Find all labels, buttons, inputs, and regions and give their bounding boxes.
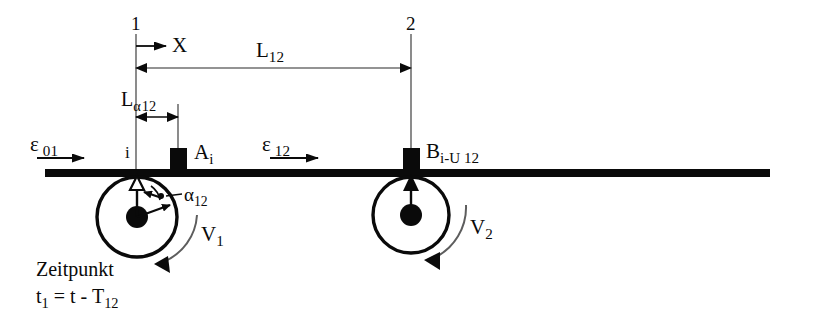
block-a-symbol: A — [194, 140, 209, 164]
epsilon-12-symbol: ε — [262, 132, 271, 156]
block-a-subscript: i — [209, 151, 213, 167]
dimension-label-l12: L12 — [256, 40, 284, 65]
block-label-b: Bi-U 12 — [426, 141, 479, 166]
epsilon-01-subscript: 01 — [39, 143, 58, 159]
diagram-vector-layer — [0, 0, 816, 318]
wheel-2 — [373, 174, 466, 270]
time-note: Zeitpunkt t1 = t - T12 — [36, 256, 119, 310]
block-b-subscript: i-U 12 — [440, 150, 479, 166]
diagram-canvas: 1 2 X L12 Lα12 ε01 ε12 i Ai Bi-U 12 α12 … — [0, 0, 816, 318]
dimension-l12-symbol: L — [256, 38, 269, 62]
dimension-lalpha-alpha: α — [133, 98, 141, 114]
time-note-line2: t1 = t - T12 — [36, 283, 119, 310]
velocity-v1-subscript: 1 — [216, 233, 224, 249]
epsilon-12-subscript: 12 — [271, 143, 290, 159]
sensor-block-b — [403, 148, 420, 171]
angle-alpha-symbol: α — [184, 184, 194, 205]
point-label-i: i — [125, 144, 130, 161]
node-label-1: 1 — [131, 14, 141, 33]
x-axis-label: X — [172, 35, 187, 56]
epsilon-12-label: ε12 — [262, 134, 290, 159]
velocity-label-v1: V1 — [201, 224, 224, 249]
angle-alpha-subscript: 12 — [194, 194, 208, 209]
time-note-T-subscript: 12 — [104, 295, 118, 311]
block-label-a: Ai — [194, 142, 213, 167]
dimension-label-l-alpha-12: Lα12 — [121, 89, 156, 113]
time-note-line1: Zeitpunkt — [36, 258, 114, 280]
dimension-l12-subscript: 12 — [269, 49, 284, 65]
angle-label-alpha-12: α12 — [184, 185, 208, 208]
time-note-t-subscript: 1 — [42, 295, 49, 311]
sensor-block-a — [170, 148, 187, 171]
dimension-lalpha-symbol: L — [121, 88, 133, 110]
node-label-2: 2 — [406, 14, 416, 33]
block-b-symbol: B — [426, 139, 440, 163]
epsilon-01-symbol: ε — [30, 132, 39, 156]
time-note-mid: = t - T — [49, 285, 104, 307]
dimension-lalpha-subscript: 12 — [141, 98, 156, 114]
velocity-v2-symbol: V — [470, 215, 485, 239]
velocity-v2-subscript: 2 — [485, 226, 493, 242]
velocity-v1-symbol: V — [201, 222, 216, 246]
epsilon-01-label: ε01 — [30, 134, 58, 159]
velocity-label-v2: V2 — [470, 217, 493, 242]
